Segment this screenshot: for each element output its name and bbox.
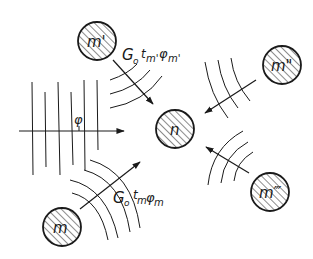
plane-wave-fronts — [32, 80, 98, 175]
svg-text:G: G — [122, 46, 134, 64]
svg-text:φ: φ — [159, 46, 168, 61]
top-formula-label: G o t m' φ m' — [122, 46, 181, 66]
node-m: m — [43, 208, 81, 246]
svg-text:m‴: m‴ — [259, 184, 282, 202]
svg-text:m: m — [154, 197, 164, 208]
svg-text:m': m' — [168, 53, 181, 64]
node-m-double-prime: m" — [263, 46, 301, 84]
m1-arrow — [113, 60, 153, 104]
bottom-formula-label: G o t m φ m — [113, 188, 164, 208]
svg-text:m": m" — [271, 57, 293, 75]
scattering-diagram: φ m' m" n m‴ — [0, 0, 313, 259]
node-n: n — [156, 110, 194, 148]
m2-arrow — [205, 80, 256, 113]
m3-wavefronts — [208, 131, 253, 185]
node-m-triple-prime: m‴ — [251, 173, 289, 211]
svg-text:G: G — [113, 189, 125, 207]
node-m-prime: m' — [78, 22, 116, 60]
svg-text:n: n — [170, 121, 180, 139]
phi-label: φ — [74, 112, 83, 127]
svg-text:o: o — [133, 56, 139, 66]
svg-text:o: o — [124, 198, 130, 208]
svg-text:m': m' — [146, 53, 159, 64]
svg-text:m': m' — [87, 33, 106, 51]
svg-text:m: m — [53, 219, 68, 237]
